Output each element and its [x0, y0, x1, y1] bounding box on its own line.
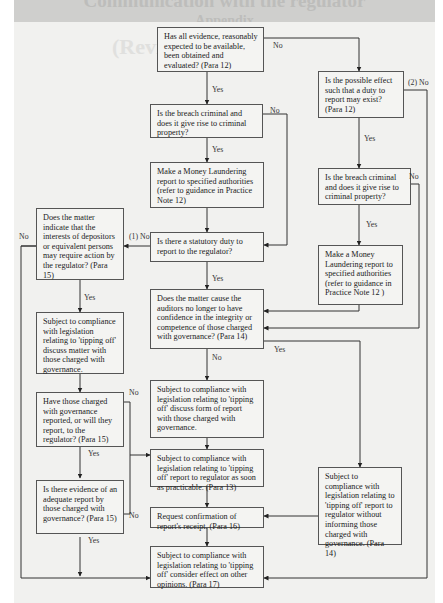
- box-evidence-question: Has all evidence, reasonably expected to…: [157, 27, 264, 72]
- label-breach-left-yes: Yes: [212, 145, 223, 154]
- label-evidence-yes: Yes: [212, 85, 223, 94]
- label-confidence-yes: Yes: [274, 345, 285, 354]
- box-discuss-form: Subject to compliance with legislation r…: [150, 380, 264, 438]
- label-possible-effect-yes: Yes: [364, 134, 375, 143]
- box-have-reported-question: Have those charged with governance repor…: [36, 392, 124, 447]
- box-breach-criminal-right: Is the breach criminal and does it give …: [318, 168, 411, 205]
- label-breach-left-no: No: [270, 106, 280, 115]
- label-depositors-no: No: [19, 232, 29, 241]
- box-money-laundering-left: Make a Money Laundering report to specif…: [150, 162, 264, 208]
- box-request-confirmation: Request confirmation of report's receipt…: [150, 507, 264, 528]
- box-discuss-matter: Subject to compliance with legislation r…: [36, 312, 124, 374]
- box-statutory-duty-question: Is there a statutory duty to report to t…: [150, 232, 264, 262]
- label-evidence-no: No: [273, 41, 283, 50]
- label-breach-right-no: No: [409, 172, 419, 181]
- box-possible-effect-question: Is the possible effect such that a duty …: [318, 71, 404, 118]
- label-statutory-no: (1) No: [129, 232, 150, 241]
- label-depositors-yes: Yes: [84, 293, 95, 302]
- label-adequate-yes: Yes: [88, 536, 99, 545]
- label-confidence-no: No: [212, 353, 222, 362]
- box-report-without-informing: Subject to compliance with legislation r…: [318, 467, 402, 545]
- box-money-laundering-right: Make a Money Laundering report to specif…: [318, 245, 403, 305]
- box-depositors-question: Does the matter indicate that the intere…: [36, 208, 124, 280]
- label-breach-right-yes: Yes: [366, 220, 377, 229]
- label-have-reported-no: No: [129, 388, 139, 397]
- box-adequate-report-question: Is there evidence of an adequate report …: [36, 480, 124, 534]
- label-adequate-no: No: [129, 511, 139, 520]
- label-possible-effect-no: (2) No: [408, 78, 429, 87]
- box-report-asap: Subject to compliance with legislation r…: [150, 449, 264, 487]
- box-consider-effect: Subject to compliance with legislation r…: [150, 546, 264, 588]
- box-breach-criminal-left: Is the breach criminal and does it give …: [150, 104, 263, 138]
- label-statutory-yes: Yes: [212, 274, 223, 283]
- box-confidence-question: Does the matter cause the auditors no lo…: [150, 289, 264, 349]
- label-have-reported-yes: Yes: [88, 449, 99, 458]
